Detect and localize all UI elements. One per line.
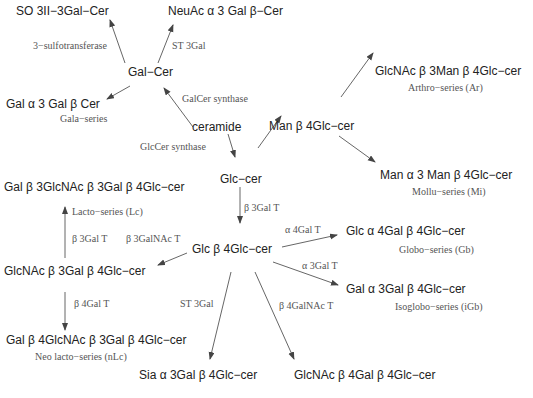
enzyme-st3gal-bottom: ST 3Gal bbox=[180, 298, 213, 310]
node-glcnac-b4gal-b4glc-cer: GlcNAc β 4Gal β 4Glc−cer bbox=[294, 368, 436, 382]
enzyme-3-sulfotransferase: 3−sulfotransferase bbox=[33, 40, 107, 52]
arrow-glcb4glc-to-sia bbox=[210, 272, 231, 359]
node-glc-b4glc-cer: Glc β 4Glc−cer bbox=[192, 242, 272, 256]
node-ceramide: ceramide bbox=[192, 120, 241, 134]
node-lacto-tetra: Gal β 3GlcNAc β 3Gal β 4Glc−cer bbox=[4, 180, 184, 194]
arrow-manb4glc-to-arthro bbox=[341, 53, 373, 97]
enzyme-b3galt-main: β 3Gal T bbox=[244, 202, 279, 214]
node-glcnac-b3man-b4glc-cer: GlcNAc β 3Man β 4Glc−cer bbox=[375, 64, 521, 78]
enzyme-b4galnact: β 4GalNAc T bbox=[279, 300, 333, 312]
series-gala: Gala−series bbox=[60, 113, 107, 125]
node-glc-a4gal-b4glc-cer: Glc α 4Gal β 4Glc−cer bbox=[346, 224, 465, 238]
node-neolacto-tetra: Gal β 4GlcNAc β 3Gal β 4Glc−cer bbox=[6, 333, 186, 347]
node-glcnac-b3gal-b4glc-cer: GlcNAc β 3Gal β 4Glc−cer bbox=[4, 264, 146, 278]
enzyme-b4galt: β 4Gal T bbox=[74, 298, 109, 310]
glycosphingolipid-pathway-diagram: SO 3II−3Gal−Cer NeuAc α 3 Gal β−Cer Gal−… bbox=[0, 0, 533, 398]
enzyme-b3galt-left: β 3Gal T bbox=[72, 233, 107, 245]
arrow-glcb4glc-to-glcnacb4gal bbox=[255, 272, 294, 359]
arrow-manb4glc-to-mollu bbox=[339, 136, 375, 162]
series-arthro: Arthro−series (Ar) bbox=[408, 82, 483, 94]
enzyme-galcer-synthase: GalCer synthase bbox=[182, 93, 248, 105]
node-gal-a3gal-b4glc-cer: Gal α 3Gal β 4Glc−cer bbox=[346, 282, 466, 296]
arrow-galcer-to-neuac bbox=[158, 25, 173, 63]
series-lacto: Lacto−series (Lc) bbox=[72, 206, 143, 218]
enzyme-glccer-synthase: GlcCer synthase bbox=[140, 141, 206, 153]
node-gal-cer: Gal−Cer bbox=[128, 65, 173, 79]
enzyme-st3gal-top: ST 3Gal bbox=[172, 40, 205, 52]
node-neuac-gal-cer: NeuAc α 3 Gal β−Cer bbox=[168, 4, 283, 18]
arrow-galcer-to-so3 bbox=[110, 20, 125, 63]
node-sia-a3gal-b4glc-cer: Sia α 3Gal β 4Glc−cer bbox=[139, 368, 257, 382]
node-man-b4glc-cer: Man β 4Glc−cer bbox=[269, 119, 354, 133]
enzyme-b3galnact: β 3GalNAc T bbox=[126, 233, 180, 245]
series-globo: Globo−series (Gb) bbox=[399, 244, 474, 256]
arrow-ceramide-to-glccer bbox=[228, 134, 235, 157]
node-so3-gal-cer: SO 3II−3Gal−Cer bbox=[16, 4, 109, 18]
series-neolacto: Neo lacto−series (nLc) bbox=[35, 351, 127, 363]
node-gal-a3gal-cer: Gal α 3 Gal β Cer bbox=[6, 97, 100, 111]
arrow-glcb4glc-to-globo bbox=[282, 235, 337, 247]
enzyme-a4galt: α 4Gal T bbox=[285, 224, 321, 236]
node-man-a3man-b4glc-cer: Man α 3 Man β 4Glc−cer bbox=[380, 168, 512, 182]
arrow-glcb4glc-to-glcnacb3gal bbox=[158, 253, 187, 265]
series-isoglobo: Isoglobo−series (iGb) bbox=[395, 301, 483, 313]
enzyme-a3galt: α 3Gal T bbox=[302, 260, 338, 272]
node-glc-cer: Glc−cer bbox=[220, 172, 262, 186]
series-mollu: Mollu−series (Mi) bbox=[412, 186, 486, 198]
arrow-galcer-to-gala bbox=[107, 86, 130, 99]
